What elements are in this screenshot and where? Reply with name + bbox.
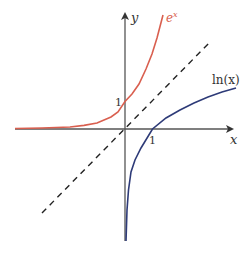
exp-label: ex <box>166 10 178 25</box>
graph-canvas: y x 1 1 ex ln(x) <box>0 0 250 259</box>
x-tick-1: 1 <box>149 134 156 147</box>
y-axis-label: y <box>130 10 139 25</box>
ln-label: ln(x) <box>212 73 240 87</box>
function-graph: y x 1 1 ex ln(x) <box>0 0 250 259</box>
x-axis-label: x <box>230 132 238 147</box>
exp-curve <box>15 15 163 129</box>
y-tick-1: 1 <box>115 96 122 109</box>
